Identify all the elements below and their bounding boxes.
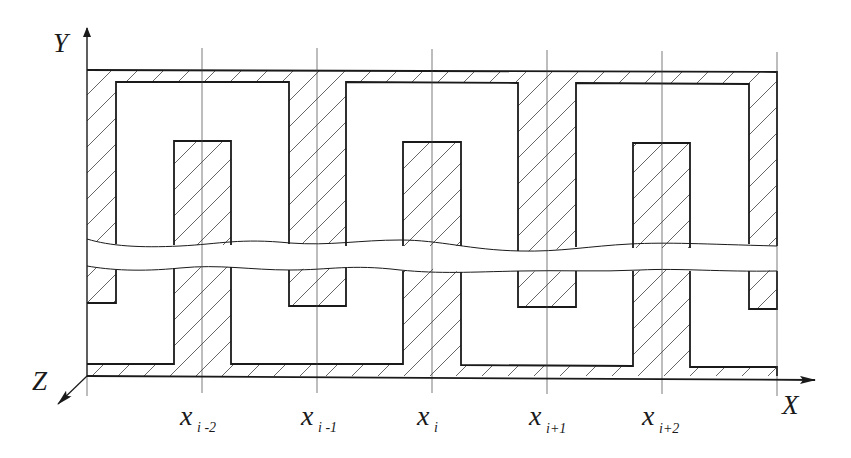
svg-text:x: x bbox=[179, 400, 193, 431]
svg-text:i -1: i -1 bbox=[318, 420, 337, 435]
label-x-i-1: x i -1 bbox=[300, 400, 337, 435]
svg-text:x: x bbox=[528, 400, 542, 431]
svg-text:i+1: i+1 bbox=[546, 421, 566, 436]
label-x-i+2: x i+2 bbox=[641, 400, 679, 436]
y-axis-label: Y bbox=[53, 28, 71, 58]
x-axis-label: X bbox=[781, 390, 800, 420]
svg-text:x: x bbox=[416, 400, 430, 431]
svg-text:i: i bbox=[434, 420, 438, 435]
svg-text:x: x bbox=[300, 400, 314, 431]
svg-text:i+2: i+2 bbox=[659, 421, 679, 436]
label-x-i+1: x i+1 bbox=[528, 400, 566, 436]
svg-text:x: x bbox=[641, 400, 655, 431]
z-axis-label: Z bbox=[32, 366, 48, 396]
x-axis bbox=[87, 376, 815, 380]
label-x-i: x i bbox=[416, 400, 438, 435]
label-x-i-2: x i -2 bbox=[179, 400, 216, 435]
cross-section-diagram: Y X Z x i -2 x i -1 x i x i+1 x i+2 bbox=[0, 0, 851, 458]
svg-text:i -2: i -2 bbox=[197, 420, 216, 435]
z-axis bbox=[58, 376, 87, 404]
